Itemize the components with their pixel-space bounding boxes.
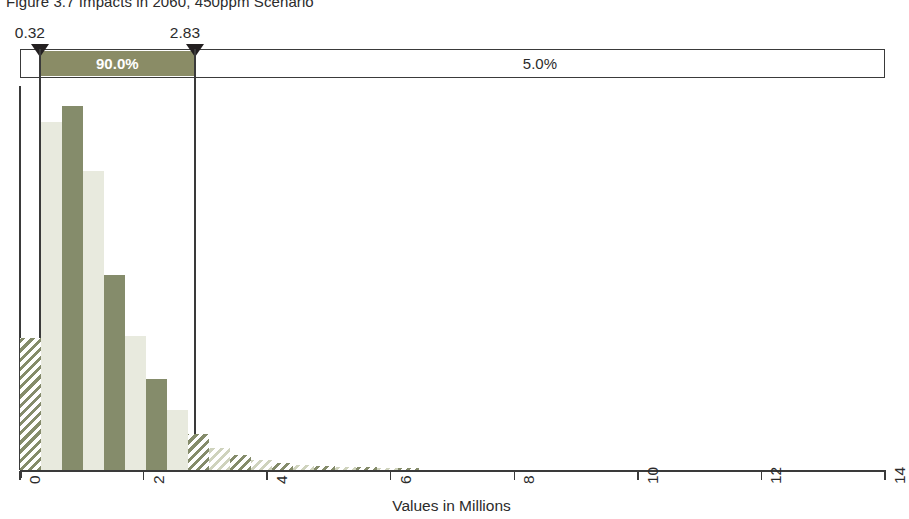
x-axis-tick <box>884 471 885 480</box>
x-axis-tick <box>637 471 638 480</box>
x-axis-tick <box>514 471 515 480</box>
x-axis-tick <box>390 471 391 480</box>
x-axis-line <box>20 470 886 472</box>
histogram-bar <box>104 275 125 470</box>
x-axis-tick-label: 14 <box>891 467 909 484</box>
histogram-bar <box>272 463 293 470</box>
x-axis-tick-label: 4 <box>273 475 291 484</box>
x-axis-tick-label: 6 <box>397 475 415 484</box>
histogram-bar <box>125 336 146 470</box>
histogram-bar <box>83 171 104 470</box>
x-axis-tick <box>143 471 144 480</box>
histogram-bar <box>20 338 41 470</box>
histogram-bar <box>188 434 209 470</box>
histogram-bar <box>41 122 62 470</box>
x-axis-tick-label: 2 <box>150 475 168 484</box>
x-axis-tick <box>761 471 762 480</box>
x-axis-tick-label: 10 <box>644 467 662 484</box>
histogram-bar <box>62 106 83 470</box>
x-axis-tick-label: 12 <box>767 467 785 484</box>
x-axis-tick-label: 0 <box>26 475 44 484</box>
x-axis-title: Values in Millions <box>0 497 903 515</box>
x-axis-tick <box>266 471 267 480</box>
histogram-bar <box>230 455 251 470</box>
x-axis-tick <box>19 471 20 480</box>
histogram-bar <box>146 379 167 470</box>
histogram-bar <box>167 410 188 470</box>
x-axis-tick-label: 8 <box>520 475 538 484</box>
histogram-bar <box>251 460 272 470</box>
histogram-bar <box>209 448 230 470</box>
